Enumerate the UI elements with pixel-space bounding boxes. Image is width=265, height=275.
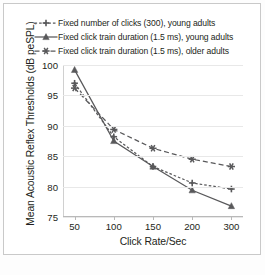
x-axis-tick-label: 50 xyxy=(69,221,80,232)
legend-key xyxy=(34,30,58,44)
y-axis-tick-label: 100 xyxy=(42,60,58,71)
x-axis-tick-mark xyxy=(75,217,76,220)
y-axis-tick-label: 80 xyxy=(47,181,58,192)
gridline xyxy=(63,187,243,188)
legend-item-label: Fixed number of clicks (300), young adul… xyxy=(58,18,215,28)
asterisk-marker xyxy=(42,48,49,54)
gridline xyxy=(63,65,243,66)
gridline xyxy=(63,126,243,127)
x-axis-tick-label: 200 xyxy=(184,221,200,232)
x-axis-tick-mark xyxy=(231,217,232,220)
y-axis-tick-label: 90 xyxy=(47,120,58,131)
x-axis-tick-label: 150 xyxy=(145,221,161,232)
legend-key-glyph xyxy=(34,30,58,44)
triangle-marker xyxy=(189,187,195,193)
legend-key xyxy=(34,16,58,30)
series-line xyxy=(75,88,232,166)
y-axis-tick-label: 85 xyxy=(47,151,58,162)
plus-star-marker xyxy=(189,180,196,187)
x-axis-tick-mark xyxy=(153,217,154,220)
asterisk-marker xyxy=(228,163,235,169)
asterisk-marker xyxy=(149,145,156,151)
legend-item[interactable]: Fixed click train duration (1.5 ms), old… xyxy=(34,44,260,58)
chart-legend: Fixed number of clicks (300), young adul… xyxy=(34,16,260,58)
series-layer xyxy=(63,65,243,217)
plus-star-marker xyxy=(43,20,50,27)
legend-key xyxy=(34,44,58,58)
x-axis-tick-mark xyxy=(192,217,193,220)
series-line xyxy=(75,83,232,189)
legend-key-glyph xyxy=(34,16,58,30)
x-axis-title: Click Rate/Sec xyxy=(63,236,243,247)
asterisk-marker xyxy=(110,126,117,132)
y-axis-tick-label: 95 xyxy=(47,90,58,101)
gridline xyxy=(63,156,243,157)
legend-item[interactable]: Fixed click train duration (1.5 ms), you… xyxy=(34,30,260,44)
triangle-marker xyxy=(71,66,77,72)
legend-item-label: Fixed click train duration (1.5 ms), you… xyxy=(58,32,233,42)
x-axis-tick-label: 300 xyxy=(223,221,239,232)
gridline xyxy=(63,95,243,96)
plot-area: 758085909510050100150200300 xyxy=(63,65,243,217)
chart-figure: Mean Acoustic Reflex Thresholds (dB peSP… xyxy=(0,0,265,275)
y-axis-tick-label: 75 xyxy=(47,212,58,223)
x-axis-tick-mark xyxy=(114,217,115,220)
legend-item[interactable]: Fixed number of clicks (300), young adul… xyxy=(34,16,260,30)
x-axis-tick-label: 100 xyxy=(106,221,122,232)
legend-item-label: Fixed click train duration (1.5 ms), old… xyxy=(58,46,229,56)
legend-key-glyph xyxy=(34,44,58,58)
